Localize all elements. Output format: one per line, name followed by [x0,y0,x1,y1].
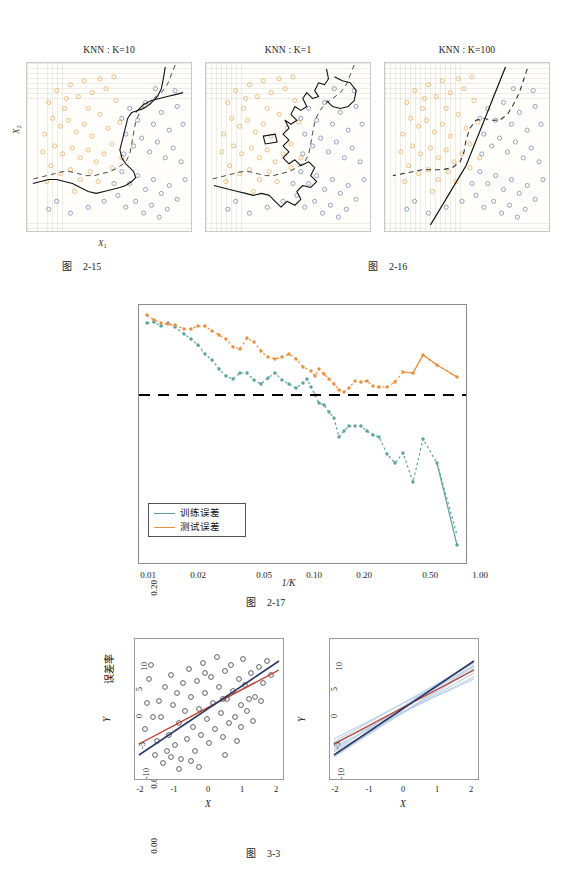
knn-y-axis-label: X2 [11,125,22,134]
legend-swatch-training [154,513,175,514]
population-line [139,670,279,744]
regression-plot-frame [329,638,479,780]
legend-item-training-error: 训练误差 [154,506,220,520]
legend-swatch-test [154,527,175,528]
x-tick-label: -2 [127,784,153,794]
figure-caption-2-15: 图2-15 [62,258,101,273]
x-tick-label: 1 [229,784,255,794]
error-chart-x-axis-label: 1/K [0,578,577,588]
knn-plot-frame [384,62,550,232]
knn-panel-k100: KNN : K=100 [384,62,550,232]
x-tick-label: 1 [424,784,450,794]
x-tick-label: 0 [195,784,221,794]
y-tick-label: -5 [332,742,342,749]
legend-item-test-error: 测试误差 [154,520,220,534]
figure-caption-3-3: 图3-3 [246,845,280,860]
y-tick-label: 0 [134,714,144,718]
error-rate-chart: 误差率 0.20 0.15 0.10 0.05 0.00 0.01 0.02 0… [0,292,577,592]
knn-plot-k1 [206,63,370,231]
regression-x-axis-label: X [178,799,238,809]
regression-y-axis-label: Y [297,717,307,722]
y-tick-label: 10 [334,662,344,671]
regression-panel-bootstrap: Y X -2 -1 0 1 2 -10 -5 0 5 10 [293,634,483,814]
knn-plot-frame [26,62,192,232]
least-squares-line [334,661,474,755]
x-tick-label: 0 [390,784,416,794]
knn-panel-row: KNN : K=10 [0,44,577,254]
regression-y-axis-label: Y [102,717,112,722]
legend-label-training: 训练误差 [180,508,220,518]
x-tick-label: -1 [161,784,187,794]
y-tick-label: 0 [329,714,339,718]
knn-x-axis-label: X1 [98,238,107,249]
regression-panel-row: Y X -2 -1 0 1 2 -10 -5 0 5 10 [0,628,577,843]
x-tick-label: 2 [458,784,484,794]
knn-panel-title: KNN : K=10 [26,45,192,55]
figure-caption-2-16: 图2-16 [368,258,407,273]
regression-panel-scatter: Y X -2 -1 0 1 2 -10 -5 0 5 10 [98,634,288,814]
knn-plot-k100 [385,63,549,231]
textbook-page: KNN : K=10 [0,0,577,880]
knn-panel-title: KNN : K=100 [384,45,550,55]
y-tick-label: -10 [141,768,151,779]
regression-plot-frame [134,638,284,780]
population-line [334,670,474,744]
figure-caption-2-17: 图2-17 [246,594,285,609]
regression-x-axis-label: X [373,799,433,809]
knn-panel-k1: KNN : K=1 [205,62,371,232]
knn-plot-frame [205,62,371,232]
y-tick-label: 5 [329,687,339,691]
regression-bootstrap-svg [330,639,478,779]
legend-label-test: 测试误差 [180,522,220,532]
regression-scatter-svg [135,639,283,779]
y-tick-label: -10 [336,768,346,779]
knn-panel-k10: KNN : K=10 [26,62,192,232]
knn-panel-title: KNN : K=1 [205,45,371,55]
y-tick-label: -5 [137,742,147,749]
error-chart-legend: 训练误差 测试误差 [148,503,246,537]
knn-plot-k10 [27,63,191,231]
x-tick-label: -1 [356,784,382,794]
y-tick-label: 10 [139,662,149,671]
y-tick-label: 5 [134,687,144,691]
x-tick-label: -2 [322,784,348,794]
x-tick-label: 2 [263,784,289,794]
